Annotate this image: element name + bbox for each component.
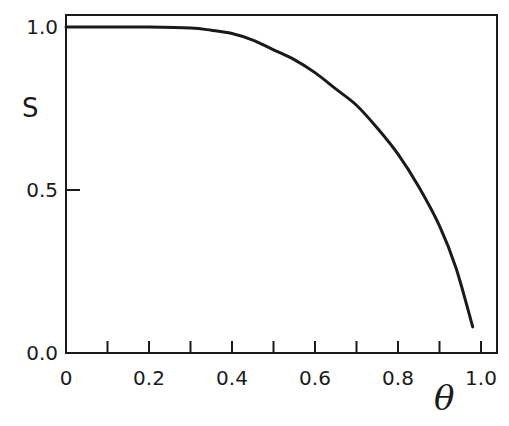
y-tick-label: 0.0 [26,341,58,365]
plot-frame [66,15,497,353]
x-tick-label: 0 [60,366,73,390]
x-axis-label: θ [434,378,454,418]
x-tick-label: 1.0 [465,366,497,390]
x-tick-label: 0.4 [216,366,248,390]
y-axis-tick-labels: 0.00.51.0 [26,15,58,365]
x-tick-label: 0.6 [299,366,331,390]
x-axis-tick-labels: 00.20.40.60.81.0 [60,366,497,390]
x-tick-label: 0.2 [133,366,165,390]
y-tick-label: 1.0 [26,15,58,39]
data-series-curve [66,27,473,327]
chart: 00.20.40.60.81.0 0.00.51.0 S θ [0,0,509,426]
y-tick-label: 0.5 [26,178,58,202]
y-axis-label: S [22,93,39,123]
x-axis-ticks [108,341,482,353]
x-tick-label: 0.8 [382,366,414,390]
